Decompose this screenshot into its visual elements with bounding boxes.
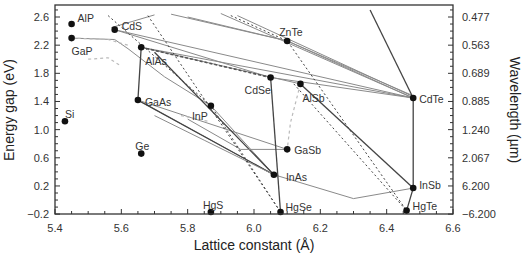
alloy-line bbox=[370, 10, 413, 98]
alloy-line bbox=[88, 58, 121, 67]
y2-tick-label: 0.689 bbox=[462, 67, 490, 79]
point-label: Si bbox=[65, 108, 74, 120]
y2-tick-label: 0.563 bbox=[462, 39, 490, 51]
y-tick-label: 1.0 bbox=[34, 124, 49, 136]
plot-frame bbox=[55, 5, 453, 214]
y-tick-label: 2.2 bbox=[34, 39, 49, 51]
point-label: CdTe bbox=[419, 93, 444, 105]
data-marker bbox=[284, 38, 291, 45]
point-label: CdSe bbox=[245, 84, 271, 96]
data-marker bbox=[267, 74, 274, 81]
point-label: GaAs bbox=[145, 96, 171, 108]
x-tick-label: 5.6 bbox=[114, 222, 129, 234]
data-marker bbox=[111, 26, 118, 33]
point-ge: Ge bbox=[135, 140, 149, 157]
y-tick-label: 0.6 bbox=[34, 152, 49, 164]
data-marker bbox=[68, 35, 75, 42]
y-tick-label: 1.8 bbox=[34, 67, 49, 79]
y2-axis-title: Wavelength (µm) bbox=[507, 57, 522, 163]
point-label: HgSe bbox=[286, 201, 312, 213]
point-label: AlAs bbox=[145, 55, 167, 67]
y2-tick-label: 0.477 bbox=[462, 11, 490, 23]
data-marker bbox=[410, 95, 417, 102]
y-axis-title: Energy gap (eV) bbox=[1, 59, 17, 161]
point-alas: AlAs bbox=[138, 44, 167, 67]
point-label: InP bbox=[192, 110, 208, 122]
y2-tick-label: 2.067 bbox=[462, 152, 490, 164]
point-gasb: GaSb bbox=[284, 144, 321, 156]
point-znte: ZnTe bbox=[279, 26, 303, 44]
x-tick-label: 6.0 bbox=[246, 222, 261, 234]
point-label: GaSb bbox=[294, 144, 321, 156]
y-tick-label: 1.4 bbox=[34, 95, 49, 107]
alloy-line bbox=[138, 47, 141, 100]
alloy-line bbox=[148, 16, 281, 212]
point-label: AlP bbox=[78, 12, 94, 24]
y-tick-label: −0.2 bbox=[27, 208, 49, 220]
point-hgse: HgSe bbox=[277, 201, 312, 215]
x-axis-title: Lattice constant (Å) bbox=[194, 237, 315, 253]
point-label: GaP bbox=[72, 45, 93, 57]
y2-tick-label: 0.885 bbox=[462, 95, 490, 107]
data-marker bbox=[410, 185, 417, 192]
data-marker bbox=[68, 21, 75, 28]
point-inp: InP bbox=[192, 102, 214, 121]
x-tick-label: 5.4 bbox=[47, 222, 62, 234]
point-label: InSb bbox=[419, 179, 441, 191]
y-axis-right: 0.4770.5630.6890.8851.2402.0676.200−6.20… bbox=[448, 10, 496, 220]
data-marker bbox=[271, 171, 278, 178]
alloy-line bbox=[271, 78, 414, 99]
x-tick-label: 6.6 bbox=[445, 222, 460, 234]
point-insb: InSb bbox=[410, 179, 441, 191]
data-marker bbox=[284, 146, 291, 153]
data-marker bbox=[208, 102, 215, 109]
point-hgs: HgS bbox=[203, 199, 223, 215]
point-label: AlSb bbox=[302, 92, 324, 104]
alloy-line bbox=[407, 98, 414, 211]
x-axis: 5.45.65.86.06.26.46.6 bbox=[47, 209, 460, 234]
point-label: Ge bbox=[135, 140, 149, 152]
y2-tick-label: −6.200 bbox=[462, 208, 496, 220]
x-tick-label: 5.8 bbox=[180, 222, 195, 234]
point-si: Si bbox=[62, 108, 75, 124]
point-gaas: GaAs bbox=[135, 96, 172, 108]
point-label: CdS bbox=[122, 20, 142, 32]
y-tick-label: 2.6 bbox=[34, 11, 49, 23]
point-label: InAs bbox=[286, 171, 307, 183]
alloy-line bbox=[115, 30, 271, 78]
y-tick-label: 0.2 bbox=[34, 180, 49, 192]
x-tick-label: 6.2 bbox=[313, 222, 328, 234]
point-alp: AlP bbox=[68, 12, 94, 27]
data-marker bbox=[297, 81, 304, 88]
bandgap-lattice-chart: AlPGaPSiCdSAlAsGaAsGeInPZnTeCdSeAlSbCdTe… bbox=[0, 0, 522, 264]
point-inas: InAs bbox=[271, 171, 307, 183]
alloy-line bbox=[231, 16, 407, 211]
alloy-line bbox=[141, 47, 413, 98]
y2-tick-label: 1.240 bbox=[462, 124, 490, 136]
point-cdte: CdTe bbox=[410, 93, 444, 105]
point-label: ZnTe bbox=[279, 26, 303, 38]
alloy-line bbox=[287, 84, 300, 149]
point-cdse: CdSe bbox=[245, 74, 274, 95]
point-alsb: AlSb bbox=[297, 81, 325, 104]
y2-tick-label: 6.200 bbox=[462, 180, 490, 192]
x-tick-label: 6.4 bbox=[379, 222, 394, 234]
data-marker bbox=[135, 97, 142, 104]
data-marker bbox=[138, 44, 145, 51]
data-marker bbox=[403, 207, 410, 214]
alloy-line bbox=[155, 116, 414, 199]
point-label: HgTe bbox=[413, 200, 438, 212]
alloy-lines bbox=[72, 10, 414, 212]
point-label: HgS bbox=[203, 199, 223, 211]
